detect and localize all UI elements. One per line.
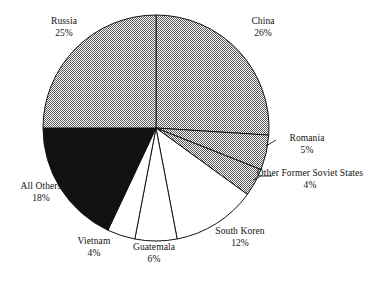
slice-label-all-others-name: All Others (2, 181, 80, 193)
slice-label-china-percent: 26% (228, 28, 298, 40)
slice-label-china-name: China (228, 16, 298, 28)
slice-label-russia: Russia 25% (28, 16, 100, 39)
slice-label-romania-name: Romania (274, 133, 340, 145)
pie-slices (43, 15, 269, 241)
slice-label-south-korea-name: South Koren (198, 226, 282, 238)
slice-label-vietnam: Vietnam 4% (62, 236, 126, 259)
pie-chart-figure: Russia 25% China 26% Romania 5% Other Fo… (0, 0, 368, 283)
slice-label-other-former-soviet-states-name: Other Former Soviet States (256, 168, 364, 180)
slice-label-south-korea: South Koren 12% (198, 226, 282, 249)
slice-label-guatemala-name: Guatemala (118, 242, 190, 254)
slice-label-russia-percent: 25% (28, 28, 100, 40)
slice-label-vietnam-name: Vietnam (62, 236, 126, 248)
slice-label-all-others-percent: 18% (2, 193, 80, 205)
slice-label-south-korea-percent: 12% (198, 238, 282, 250)
slice-label-romania: Romania 5% (274, 133, 340, 156)
slice-label-china: China 26% (228, 16, 298, 39)
slice-label-guatemala: Guatemala 6% (118, 242, 190, 265)
slice-label-russia-name: Russia (28, 16, 100, 28)
slice-label-other-former-soviet-states-percent: 4% (256, 180, 364, 192)
slice-label-other-former-soviet-states: Other Former Soviet States 4% (256, 168, 364, 191)
slice-label-guatemala-percent: 6% (118, 254, 190, 266)
slice-label-romania-percent: 5% (274, 145, 340, 157)
slice-label-vietnam-percent: 4% (62, 248, 126, 260)
slice-label-all-others: All Others 18% (2, 181, 80, 204)
